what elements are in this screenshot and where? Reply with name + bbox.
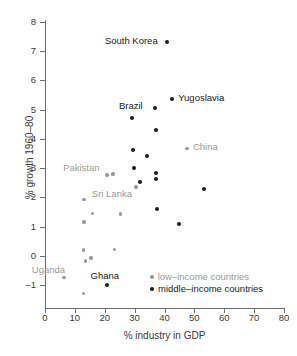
data-point[interactable] bbox=[202, 187, 206, 191]
y-tick-mark bbox=[40, 197, 45, 198]
data-point-label: Brazil bbox=[119, 101, 143, 111]
data-point[interactable] bbox=[131, 148, 135, 152]
data-point[interactable] bbox=[154, 128, 158, 132]
data-point[interactable] bbox=[165, 40, 169, 44]
data-point[interactable] bbox=[105, 173, 108, 176]
legend-marker-low-income-icon bbox=[150, 275, 153, 278]
data-point[interactable] bbox=[153, 106, 157, 110]
legend-item-low-income[interactable]: low–income countries bbox=[150, 271, 263, 283]
x-tick-label: 0 bbox=[34, 313, 56, 323]
data-point[interactable] bbox=[105, 283, 109, 287]
legend-marker-middle-income-icon bbox=[150, 287, 154, 291]
y-tick-mark bbox=[40, 80, 45, 81]
x-tick-label: 70 bbox=[243, 313, 265, 323]
data-point-label: Ghana bbox=[91, 271, 120, 281]
y-tick-label: –1 bbox=[14, 280, 36, 290]
data-point[interactable] bbox=[82, 292, 85, 295]
y-tick-label: 0 bbox=[14, 251, 36, 261]
data-point[interactable] bbox=[138, 180, 142, 184]
y-tick-label: 7 bbox=[14, 46, 36, 56]
legend-label-low-income: low–income countries bbox=[158, 272, 249, 282]
x-tick-label: 10 bbox=[64, 313, 86, 323]
data-point[interactable] bbox=[132, 166, 136, 170]
data-point[interactable] bbox=[89, 256, 92, 259]
data-point[interactable] bbox=[62, 276, 65, 279]
data-point[interactable] bbox=[155, 207, 159, 211]
y-tick-mark bbox=[40, 168, 45, 169]
data-point-label: Pakistan bbox=[63, 163, 99, 173]
data-point[interactable] bbox=[91, 212, 94, 215]
x-tick-label: 20 bbox=[94, 313, 116, 323]
y-tick-mark bbox=[40, 22, 45, 23]
x-tick-label: 80 bbox=[273, 313, 295, 323]
data-point-label: China bbox=[193, 142, 218, 152]
data-point[interactable] bbox=[119, 212, 122, 215]
scatter-plot: 876543210–1 01020304050607080 UgandaPaki… bbox=[0, 0, 297, 356]
y-tick-mark bbox=[40, 227, 45, 228]
legend-label-middle-income: middle–income countries bbox=[158, 284, 263, 294]
data-point[interactable] bbox=[113, 248, 116, 251]
y-tick-label: 8 bbox=[14, 17, 36, 27]
data-point[interactable] bbox=[154, 171, 158, 175]
y-tick-mark bbox=[40, 51, 45, 52]
x-tick-label: 60 bbox=[213, 313, 235, 323]
data-point[interactable] bbox=[134, 185, 137, 188]
legend-item-middle-income[interactable]: middle–income countries bbox=[150, 283, 263, 295]
data-point[interactable] bbox=[82, 248, 85, 251]
y-tick-mark bbox=[40, 285, 45, 286]
chart-legend: low–income countries middle–income count… bbox=[150, 271, 263, 295]
data-point-label: South Korea bbox=[105, 36, 158, 46]
data-point[interactable] bbox=[177, 222, 181, 226]
y-tick-mark bbox=[40, 139, 45, 140]
data-point[interactable] bbox=[130, 116, 134, 120]
data-point[interactable] bbox=[82, 198, 85, 201]
data-point-label: Yugoslavia bbox=[178, 93, 224, 103]
x-axis-title: % industry in GDP bbox=[45, 330, 284, 341]
data-point[interactable] bbox=[170, 97, 174, 101]
data-point[interactable] bbox=[84, 259, 87, 262]
x-tick-label: 30 bbox=[124, 313, 146, 323]
data-point[interactable] bbox=[111, 172, 114, 175]
x-tick-label: 40 bbox=[154, 313, 176, 323]
data-point[interactable] bbox=[185, 147, 188, 150]
y-tick-mark bbox=[40, 110, 45, 111]
data-point[interactable] bbox=[154, 177, 158, 181]
data-point-label: Sri Lanka bbox=[92, 189, 132, 199]
data-point[interactable] bbox=[145, 154, 149, 158]
y-axis-title: % growth 1960–80 bbox=[24, 83, 35, 233]
x-tick-label: 50 bbox=[183, 313, 205, 323]
y-tick-mark bbox=[40, 256, 45, 257]
data-point[interactable] bbox=[82, 220, 85, 223]
data-point-label: Uganda bbox=[32, 265, 65, 275]
